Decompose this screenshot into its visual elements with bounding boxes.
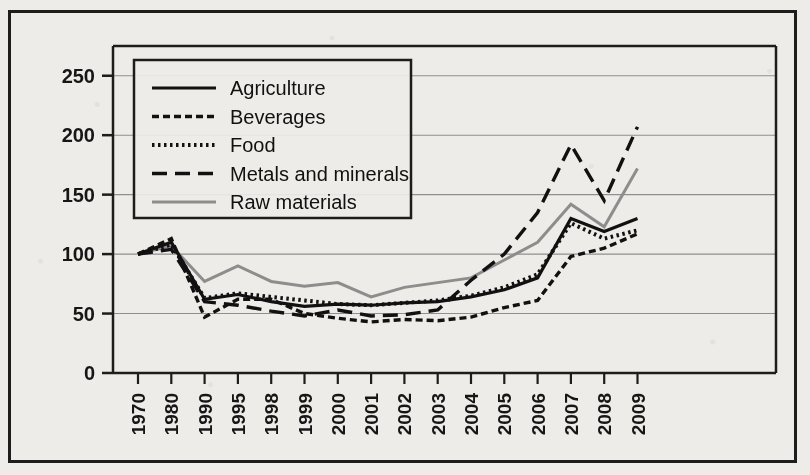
x-tick-label: 1980 — [161, 393, 182, 435]
chart-legend: AgricultureBeveragesFoodMetals and miner… — [134, 60, 411, 218]
x-tick-label: 2003 — [428, 393, 449, 435]
legend-label-agriculture: Agriculture — [230, 77, 326, 99]
x-tick-label: 2002 — [394, 393, 415, 435]
x-tick-label: 1990 — [195, 393, 216, 435]
y-tick-label: 250 — [62, 65, 95, 87]
legend-label-food: Food — [230, 134, 276, 156]
chart-figure: 250200150100500 197019801990199519981999… — [0, 0, 810, 475]
y-tick-label: 200 — [62, 124, 95, 146]
x-tick-label: 1970 — [128, 393, 149, 435]
x-tick-label: 2004 — [461, 393, 482, 436]
y-tick-label: 150 — [62, 184, 95, 206]
x-tick-label: 1995 — [228, 393, 249, 436]
y-tick-label: 50 — [73, 303, 95, 325]
x-tick-label: 2009 — [628, 393, 649, 435]
x-tick-label: 2006 — [528, 393, 549, 435]
x-tick-label: 1998 — [261, 393, 282, 435]
commodity-price-index-line-chart: 250200150100500 197019801990199519981999… — [0, 0, 810, 475]
y-tick-label: 100 — [62, 243, 95, 265]
y-tick-label: 0 — [84, 362, 95, 384]
legend-label-metals-and-minerals: Metals and minerals — [230, 163, 409, 185]
y-axis: 250200150100500 — [62, 65, 113, 384]
x-tick-label: 2008 — [594, 393, 615, 435]
x-axis: 1970198019901995199819992000200120022003… — [128, 373, 649, 435]
x-tick-label: 1999 — [295, 393, 316, 435]
x-tick-label: 2007 — [561, 393, 582, 435]
legend-label-beverages: Beverages — [230, 106, 326, 128]
x-tick-label: 2000 — [328, 393, 349, 435]
x-tick-label: 2005 — [494, 393, 515, 436]
legend-label-raw-materials: Raw materials — [230, 191, 357, 213]
x-tick-label: 2001 — [361, 393, 382, 436]
